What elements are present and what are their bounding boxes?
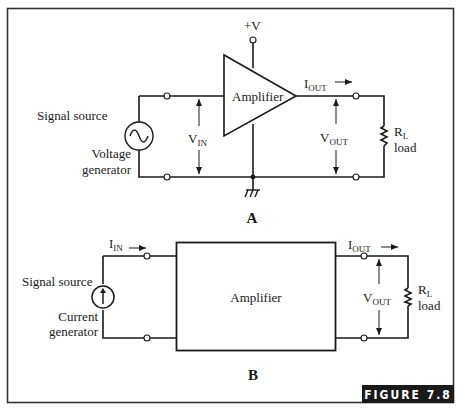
load-resistor-icon-b (405, 288, 411, 306)
output-terminal-top-a (353, 93, 359, 99)
amplifier-label-b: Amplifier (230, 290, 282, 305)
current-source-icon (92, 286, 114, 308)
generator-label-a: generator (82, 162, 132, 177)
signal-source-label-b: Signal source (22, 274, 93, 289)
load-resistor-icon-a (381, 126, 387, 146)
part-label-a: A (247, 210, 258, 226)
load-rl-label-b: RL (418, 282, 432, 299)
load-rl-label-a: RL (394, 124, 408, 141)
amplifier-label-a: Amplifier (232, 89, 284, 104)
figure-label: FIGURE 7.8 (364, 388, 452, 402)
iin-label: IIN (109, 236, 123, 253)
part-label-b: B (248, 367, 258, 383)
figure-canvas: VIN Signal source Voltage generator +V A… (0, 0, 465, 415)
load-text-a: load (394, 140, 417, 155)
vout-label-a: VOUT (320, 130, 348, 147)
output-terminal-bottom-a (353, 174, 359, 180)
input-terminal-bottom-b (144, 335, 150, 341)
supply-terminal (250, 37, 256, 43)
vin-label: VIN (188, 131, 207, 148)
chassis-ground-icon (245, 190, 260, 197)
input-terminal-top-a (164, 93, 170, 99)
current-label: Current (58, 309, 98, 324)
vout-label-b: VOUT (363, 290, 391, 307)
output-terminal-bottom-b (361, 335, 367, 341)
panel-a: VIN Signal source Voltage generator +V A… (37, 18, 417, 226)
input-terminal-bottom-a (164, 174, 170, 180)
voltage-label: Voltage (92, 146, 132, 161)
load-text-b: load (418, 298, 441, 313)
iout-label-a: IOUT (304, 76, 327, 93)
supply-label: +V (244, 18, 261, 33)
iout-label-b: IOUT (348, 237, 371, 254)
generator-label-b: generator (49, 324, 99, 339)
figure-label-badge: FIGURE 7.8 (362, 385, 454, 403)
input-terminal-top-b (144, 253, 150, 259)
signal-source-label-a: Signal source (37, 108, 108, 123)
panel-b: Signal source Current generator IIN Ampl… (22, 236, 441, 383)
